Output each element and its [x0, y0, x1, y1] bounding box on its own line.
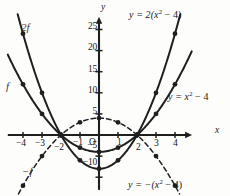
data-point	[78, 120, 83, 125]
equation-neg-f: y = −(x2 − 4)	[128, 180, 182, 190]
equation-neg-f-prefix: y = −(x	[128, 179, 159, 190]
data-point	[97, 149, 102, 154]
equation-f-suffix: − 4	[192, 91, 208, 102]
data-point	[154, 154, 159, 159]
data-point	[173, 31, 178, 36]
data-point	[97, 116, 102, 121]
y-tick-5: 5	[83, 107, 97, 117]
data-point	[59, 133, 64, 138]
equation-2f-suffix: − 4)	[162, 9, 181, 20]
x-axis-arrow	[185, 132, 192, 138]
graph-figure: y x O 25 20 15 10 5 −5 −10 −4 −3 −2 −1 1…	[0, 0, 230, 196]
x-tick-neg1: −1	[73, 138, 83, 148]
data-point	[97, 166, 102, 171]
equation-neg-f-suffix: − 4)	[163, 179, 182, 190]
y-tick-20: 20	[83, 43, 97, 53]
y-axis-label: y	[101, 3, 105, 13]
data-point	[135, 133, 140, 138]
data-point	[21, 183, 26, 188]
y-tick-10: 10	[83, 86, 97, 96]
data-point	[116, 158, 121, 163]
curve-annotation-2f: 2f	[21, 22, 30, 33]
x-axis-label: x	[215, 126, 219, 136]
curve-annotation-neg-f: −f	[22, 166, 32, 177]
y-tick-neg10: −10	[75, 158, 97, 168]
data-point	[116, 120, 121, 125]
curve-annotation-f: f	[6, 81, 9, 92]
data-point	[40, 154, 45, 159]
data-point	[154, 90, 159, 95]
y-tick-15: 15	[83, 65, 97, 75]
data-point	[154, 112, 159, 117]
x-tick-neg4: −4	[16, 139, 26, 149]
equation-2f-prefix: y = 2(x	[129, 9, 159, 20]
x-tick-1: 1	[117, 138, 122, 148]
equation-f: y = x2 − 4	[168, 92, 209, 102]
equation-f-prefix: y = x	[168, 91, 189, 102]
data-point	[173, 82, 178, 87]
data-point	[40, 112, 45, 117]
y-tick-25: 25	[83, 22, 97, 32]
data-point	[40, 90, 45, 95]
x-tick-2: 2	[136, 143, 141, 153]
x-tick-neg3: −3	[35, 139, 45, 149]
data-point	[21, 82, 26, 87]
x-tick-3: 3	[154, 139, 159, 149]
x-tick-neg2: −2	[54, 143, 64, 153]
equation-2f: y = 2(x2 − 4)	[129, 10, 182, 20]
x-tick-4: 4	[173, 139, 178, 149]
